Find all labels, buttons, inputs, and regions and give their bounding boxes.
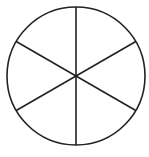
- divided-circle-diagram: [0, 0, 149, 157]
